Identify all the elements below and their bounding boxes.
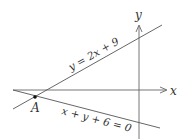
coordinate-diagram: x y y = 2x + 9 x + y + 6 = 0 A — [0, 0, 185, 139]
line-1-equation-label: y = 2x + 9 — [65, 34, 121, 73]
point-a-label: A — [30, 101, 40, 115]
x-axis-label: x — [170, 84, 177, 98]
point-a-marker — [33, 95, 37, 99]
y-axis-label: y — [134, 8, 142, 22]
x-axis — [13, 87, 167, 93]
line-2-equation-label: x + y + 6 = 0 — [60, 104, 133, 134]
